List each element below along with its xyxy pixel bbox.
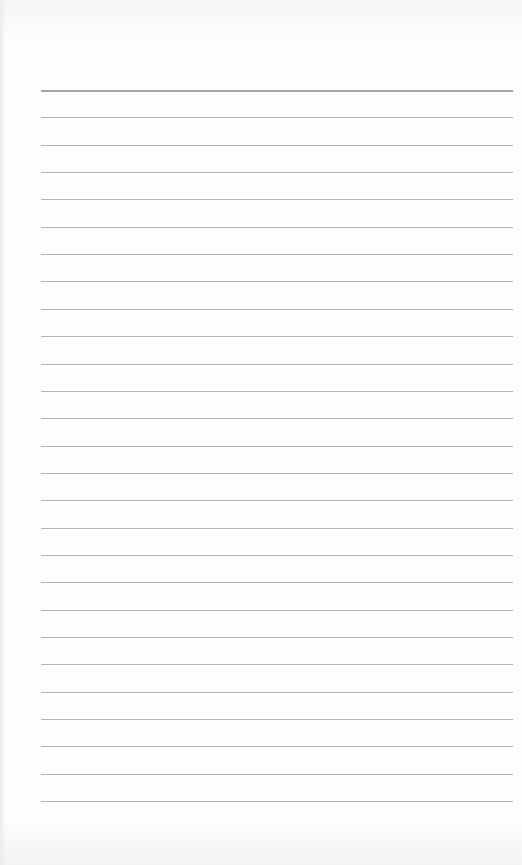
ruled-page — [0, 0, 522, 865]
ruled-line — [41, 801, 513, 802]
ruled-line — [41, 528, 513, 529]
ruled-line — [41, 582, 513, 583]
ruled-line — [41, 309, 513, 310]
ruled-line — [41, 227, 513, 228]
ruled-line — [41, 90, 513, 92]
ruled-line — [41, 746, 513, 747]
ruled-line — [41, 637, 513, 638]
ruled-line — [41, 692, 513, 693]
page-edge-shadow — [0, 0, 6, 865]
ruled-line — [41, 172, 513, 173]
ruled-line — [41, 500, 513, 501]
ruled-line — [41, 281, 513, 282]
ruled-line — [41, 473, 513, 474]
ruled-line — [41, 719, 513, 720]
ruled-line — [41, 199, 513, 200]
ruled-line — [41, 145, 513, 146]
ruled-line — [41, 391, 513, 392]
ruled-line — [41, 117, 513, 118]
ruled-line — [41, 364, 513, 365]
ruled-line — [41, 446, 513, 447]
ruled-line — [41, 418, 513, 419]
ruled-line — [41, 555, 513, 556]
ruled-line — [41, 336, 513, 337]
ruled-line — [41, 664, 513, 665]
ruled-line — [41, 254, 513, 255]
ruled-line — [41, 610, 513, 611]
ruled-line — [41, 774, 513, 775]
